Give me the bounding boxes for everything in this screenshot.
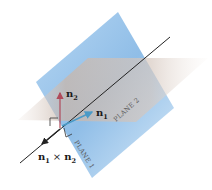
- cross-product-vector: [42, 129, 60, 144]
- cross-product-label: n1×n2: [38, 151, 76, 165]
- planes-diagram: n2 n1 n1×n2 PLANE 1 PLANE 2: [0, 0, 212, 190]
- diagram-canvas: n2 n1 n1×n2 PLANE 1 PLANE 2: [0, 0, 212, 190]
